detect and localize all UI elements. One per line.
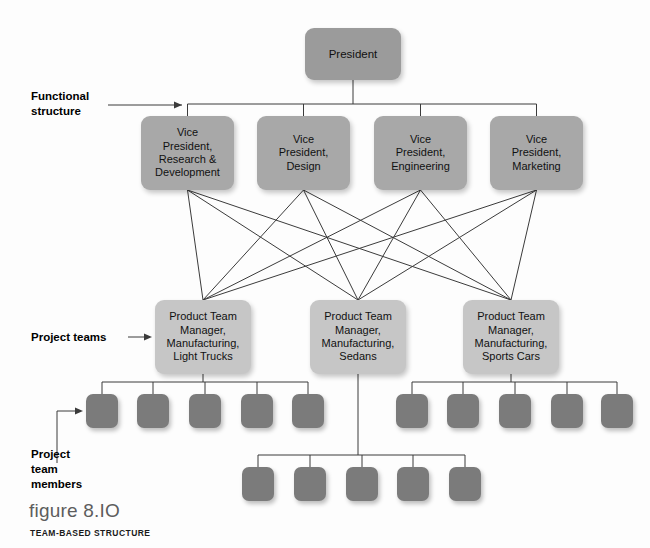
edge-vp-engineering-to-ptm-sedans — [358, 190, 421, 300]
label-project-team-members: Project team members — [31, 447, 82, 493]
connector-lines — [0, 0, 650, 548]
node-product-team-manager-light-trucks[interactable]: Product Team Manager, Manufacturing, Lig… — [155, 300, 251, 374]
node-team-member[interactable] — [449, 467, 481, 501]
node-team-member[interactable] — [499, 394, 531, 428]
node-team-member[interactable] — [294, 467, 326, 501]
node-vp-engineering[interactable]: Vice President, Engineering — [374, 116, 467, 190]
node-product-team-manager-sedans[interactable]: Product Team Manager, Manufacturing, Sed… — [310, 300, 406, 374]
label-project-teams: Project teams — [31, 330, 106, 345]
arrow-functional-structure-head — [174, 102, 182, 109]
node-vp-marketing[interactable]: Vice President, Marketing — [490, 116, 583, 190]
node-team-member[interactable] — [551, 394, 583, 428]
node-team-member[interactable] — [137, 394, 169, 428]
node-vp-research-development[interactable]: Vice President, Research & Development — [141, 116, 234, 190]
edge-vp-marketing-to-ptm-sports-cars — [511, 190, 537, 300]
edge-vp-rnd-to-ptm-sports-cars — [188, 190, 512, 300]
node-team-member[interactable] — [601, 394, 633, 428]
node-team-member[interactable] — [346, 467, 378, 501]
arrow-project-teams-head — [144, 334, 152, 341]
arrow-project-team-members-head — [75, 408, 83, 415]
node-team-member[interactable] — [241, 394, 273, 428]
node-team-member[interactable] — [86, 394, 118, 428]
edge-vp-design-to-ptm-light-trucks — [203, 190, 304, 300]
node-product-team-manager-sports-cars[interactable]: Product Team Manager, Manufacturing, Spo… — [463, 300, 559, 374]
edge-vp-marketing-to-ptm-light-trucks — [203, 190, 537, 300]
edge-vp-design-to-ptm-sedans — [304, 190, 359, 300]
label-functional-structure: Functional structure — [31, 89, 89, 119]
figure-number: figure 8.IO — [29, 500, 120, 522]
node-team-member[interactable] — [396, 394, 428, 428]
node-team-member[interactable] — [242, 467, 274, 501]
node-team-member[interactable] — [447, 394, 479, 428]
node-vp-design[interactable]: Vice President, Design — [257, 116, 350, 190]
figure-title: TEAM-BASED STRUCTURE — [30, 528, 150, 538]
edge-vp-marketing-to-ptm-sedans — [358, 190, 537, 300]
node-team-member[interactable] — [397, 467, 429, 501]
node-team-member[interactable] — [292, 394, 324, 428]
edge-vp-engineering-to-ptm-sports-cars — [421, 190, 512, 300]
edge-vp-design-to-ptm-sports-cars — [304, 190, 512, 300]
node-team-member[interactable] — [189, 394, 221, 428]
edge-vp-engineering-to-ptm-light-trucks — [203, 190, 421, 300]
edge-vp-rnd-to-ptm-sedans — [188, 190, 359, 300]
figure-canvas: President Vice President, Research & Dev… — [0, 0, 650, 548]
node-president[interactable]: President — [305, 28, 401, 80]
edge-vp-rnd-to-ptm-light-trucks — [188, 190, 204, 300]
